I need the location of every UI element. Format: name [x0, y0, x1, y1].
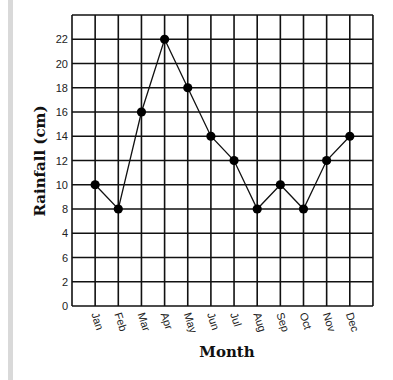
data-point-marker: [229, 156, 238, 165]
y-axis-ticks: 0264810121416182022: [56, 33, 68, 312]
x-axis-ticks: JanFebMarAprMayJunJulAugSepOctNovDec: [89, 311, 361, 335]
data-series: [91, 35, 355, 214]
x-tick-label: Jan: [89, 311, 106, 332]
x-tick-label: May: [182, 311, 200, 335]
x-tick-label: Oct: [298, 311, 315, 331]
y-tick-label: 14: [56, 130, 68, 142]
x-tick-label: Dec: [344, 311, 362, 334]
x-tick-label: Jun: [205, 311, 222, 332]
data-point-marker: [114, 204, 123, 213]
y-tick-label: 4: [62, 227, 68, 239]
y-tick-label: 22: [56, 33, 68, 45]
data-point-marker: [345, 132, 354, 141]
data-point-marker: [91, 180, 100, 189]
data-point-marker: [137, 107, 146, 116]
data-point-marker: [160, 35, 169, 44]
x-axis-title: Month: [199, 343, 254, 361]
y-axis-title: Rainfall (cm): [31, 105, 49, 216]
data-point-marker: [322, 156, 331, 165]
data-point-marker: [299, 204, 308, 213]
series-line: [95, 39, 350, 209]
x-tick-label: Feb: [112, 311, 129, 333]
line-chart: 0264810121416182022 JanFebMarAprMayJunJu…: [0, 0, 393, 380]
data-point-marker: [253, 204, 262, 213]
y-tick-label: 0: [62, 300, 68, 312]
x-tick-label: Nov: [321, 311, 339, 334]
x-tick-label: Jul: [228, 311, 244, 328]
y-tick-label: 16: [56, 106, 68, 118]
x-tick-label: Sep: [274, 311, 291, 333]
y-tick-label: 18: [56, 82, 68, 94]
y-tick-label: 12: [56, 155, 68, 167]
y-tick-label: 20: [56, 58, 68, 70]
data-point-marker: [206, 132, 215, 141]
y-tick-label: 10: [56, 179, 68, 191]
data-point-marker: [276, 180, 285, 189]
y-tick-label: 8: [62, 203, 68, 215]
y-tick-label: 2: [62, 276, 68, 288]
data-point-marker: [183, 83, 192, 92]
x-tick-label: Apr: [159, 311, 176, 331]
x-tick-label: Mar: [136, 311, 153, 333]
x-tick-label: Aug: [251, 311, 268, 333]
y-tick-label: 6: [62, 252, 68, 264]
